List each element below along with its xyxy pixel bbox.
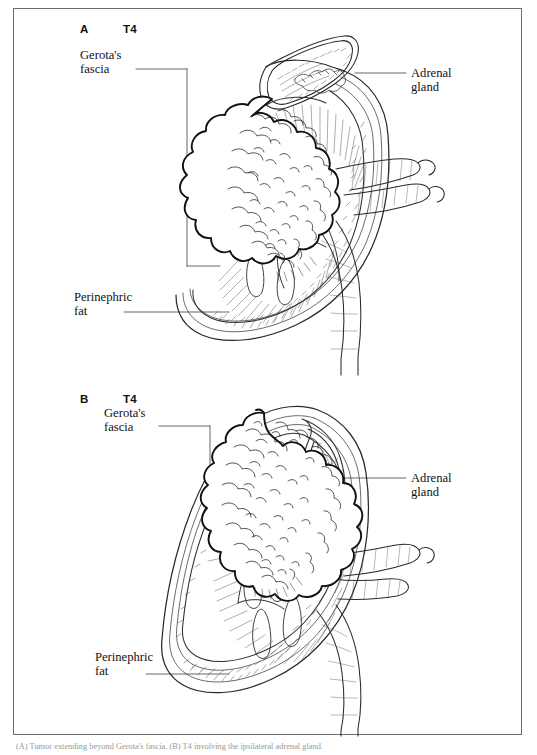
panel-a: A T4 Gerota's fascia Adrenal gland Perin… [14, 9, 521, 375]
panel-b-illustration [14, 375, 523, 736]
figure-caption: (A) Tumor extending beyond Gerota's fasc… [16, 742, 537, 751]
panel-b: B T4 Gerota's fascia Adrenal gland Perin… [14, 375, 521, 736]
panel-a-ureter [317, 221, 361, 375]
panel-a-renal-vessels [336, 159, 444, 215]
figure-frame: A T4 Gerota's fascia Adrenal gland Perin… [13, 8, 522, 735]
panel-b-tumor-mass [201, 410, 363, 601]
panel-a-tumor-interface [277, 257, 316, 281]
panel-a-tumor-mass [180, 97, 340, 264]
panel-a-illustration [14, 9, 523, 375]
panel-a-adrenal-gland [260, 36, 358, 109]
panel-b-ureter [317, 605, 361, 736]
